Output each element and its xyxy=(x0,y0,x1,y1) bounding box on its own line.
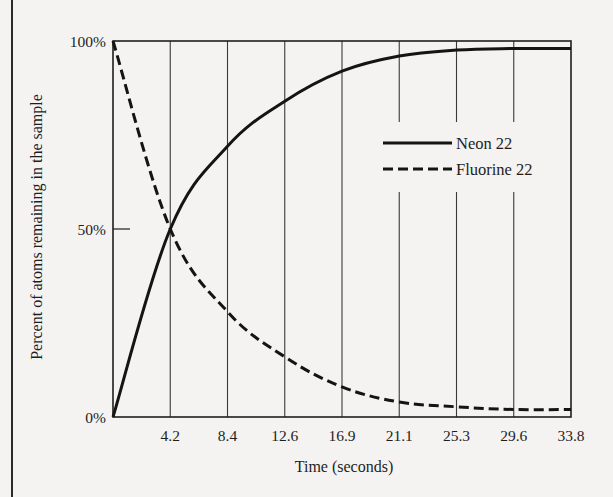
x-tick-label: 12.6 xyxy=(271,427,298,444)
x-axis-label: Time (seconds) xyxy=(295,458,394,476)
x-tick-label: 16.9 xyxy=(328,427,355,444)
y-tick-label: 0% xyxy=(85,409,106,426)
legend-background xyxy=(378,122,568,192)
x-axis-tick-labels: 4.28.412.616.921.125.329.633.8 xyxy=(161,427,585,444)
gridlines xyxy=(170,41,514,417)
chart: 0%50%100% 4.28.412.616.921.125.329.633.8… xyxy=(0,0,613,497)
legend-label-fluorine: Fluorine 22 xyxy=(456,160,533,179)
x-tick-label: 21.1 xyxy=(386,427,413,444)
x-tick-label: 25.3 xyxy=(443,427,470,444)
chart-canvas: 0%50%100% 4.28.412.616.921.125.329.633.8… xyxy=(0,0,613,497)
y-tick-label: 50% xyxy=(78,221,107,238)
y-axis-tick-labels: 0%50%100% xyxy=(70,33,106,426)
x-tick-label: 29.6 xyxy=(500,427,527,444)
x-tick-label: 4.2 xyxy=(161,427,180,444)
y-axis-label: Percent of atoms remaining in the sample xyxy=(28,94,46,360)
x-tick-label: 33.8 xyxy=(557,427,584,444)
legend-label-neon: Neon 22 xyxy=(456,134,512,153)
x-tick-label: 8.4 xyxy=(218,427,238,444)
y-tick-label: 100% xyxy=(70,33,106,50)
